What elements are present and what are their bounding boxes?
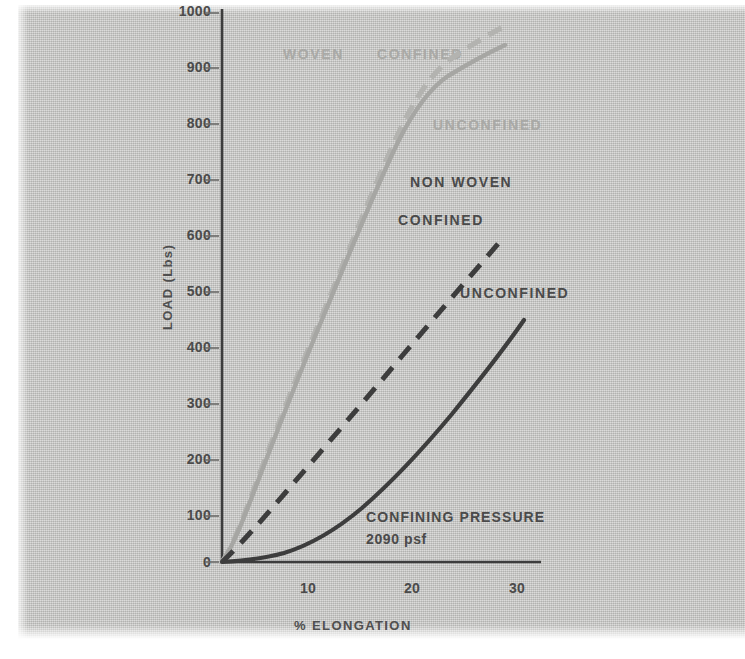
confining-pressure-note-line2: 2090 psf — [366, 531, 427, 547]
y-tick-200: 200 — [165, 451, 211, 467]
label-nonwoven-confined: CONFINED — [398, 212, 484, 228]
figure-root: 1000 900 800 700 600 500 400 300 200 100… — [0, 0, 745, 659]
y-tick-100: 100 — [165, 507, 211, 523]
y-tick-800: 800 — [165, 115, 211, 131]
label-woven-confined: CONFINED — [377, 46, 463, 62]
x-axis-title: % ELONGATION — [294, 618, 412, 633]
label-woven-group: WOVEN — [283, 46, 344, 62]
label-nonwoven-unconfined: UNCONFINED — [460, 285, 569, 301]
x-tick-30: 30 — [497, 580, 537, 596]
y-tick-1000: 1000 — [165, 3, 211, 19]
y-axis-title: LOAD (Lbs) — [160, 244, 175, 330]
y-tick-600: 600 — [165, 227, 211, 243]
scan-left-fade — [18, 5, 28, 639]
y-tick-300: 300 — [165, 395, 211, 411]
y-tick-400: 400 — [165, 339, 211, 355]
confining-pressure-note-line1: CONFINING PRESSURE — [366, 509, 545, 525]
x-tick-10: 10 — [288, 580, 328, 596]
y-tick-700: 700 — [165, 171, 211, 187]
y-tick-900: 900 — [165, 59, 211, 75]
x-tick-20: 20 — [392, 580, 432, 596]
label-nonwoven-group: NON WOVEN — [410, 174, 512, 190]
scan-top-fade — [18, 5, 745, 13]
y-tick-0: 0 — [165, 554, 211, 570]
label-woven-unconfined: UNCONFINED — [433, 117, 542, 133]
